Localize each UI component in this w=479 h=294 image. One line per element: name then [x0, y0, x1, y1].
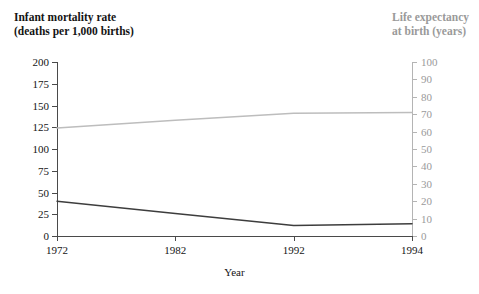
- x-tick-label: 1992: [283, 244, 305, 256]
- x-axis-title: Year: [57, 266, 412, 278]
- left-tick-label: 175: [33, 78, 50, 90]
- right-tick-mark: [412, 132, 417, 133]
- left-tick-label: 50: [38, 187, 49, 199]
- dual-axis-line-chart: Infant mortality rate (deaths per 1,000 …: [0, 0, 479, 294]
- plot-area: 0255075100125150175200 01020304050607080…: [57, 62, 412, 236]
- right-tick-label: 10: [421, 213, 432, 225]
- left-tick-label: 0: [44, 230, 50, 242]
- right-tick-mark: [412, 79, 417, 80]
- x-tick-mark: [57, 236, 58, 241]
- x-tick-mark: [412, 236, 413, 241]
- right-tick-mark: [412, 114, 417, 115]
- x-tick-label: 1994: [401, 244, 423, 256]
- right-tick-label: 20: [421, 195, 432, 207]
- right-tick-mark: [412, 184, 417, 185]
- x-tick-mark: [294, 236, 295, 241]
- left-tick-label: 150: [33, 100, 50, 112]
- right-tick-label: 50: [421, 143, 432, 155]
- left-tick-label: 25: [38, 208, 49, 220]
- left-tick-label: 200: [33, 56, 50, 68]
- left-tick-label: 125: [33, 121, 50, 133]
- right-tick-label: 0: [421, 230, 427, 242]
- right-tick-label: 30: [421, 178, 432, 190]
- right-tick-label: 90: [421, 73, 432, 85]
- left-tick-label: 75: [38, 165, 49, 177]
- right-tick-mark: [412, 149, 417, 150]
- x-tick-mark: [175, 236, 176, 241]
- right-tick-label: 40: [421, 160, 432, 172]
- right-tick-mark: [412, 97, 417, 98]
- right-tick-mark: [412, 201, 417, 202]
- left-axis-title: Infant mortality rate (deaths per 1,000 …: [14, 10, 134, 38]
- right-tick-label: 70: [421, 108, 432, 120]
- right-tick-mark: [412, 219, 417, 220]
- right-tick-mark: [412, 166, 417, 167]
- series-lines: [57, 62, 412, 236]
- right-tick-label: 100: [421, 56, 438, 68]
- series-line: [57, 201, 412, 225]
- series-line: [57, 112, 412, 128]
- left-tick-label: 100: [33, 143, 50, 155]
- x-tick-label: 1982: [164, 244, 186, 256]
- right-tick-label: 60: [421, 126, 432, 138]
- right-axis-title: Life expectancy at birth (years): [392, 10, 469, 38]
- right-tick-mark: [412, 62, 417, 63]
- x-axis-spine: [57, 236, 413, 237]
- right-tick-label: 80: [421, 91, 432, 103]
- x-tick-label: 1972: [46, 244, 68, 256]
